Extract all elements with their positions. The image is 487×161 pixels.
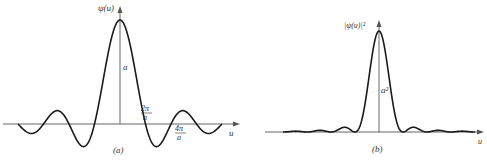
y-axis-arrow-icon [118,6,123,13]
figure: ψ(u) a 2π a 4π a u (a) |ψ(u)|² a² u (b) [0,0,487,161]
panel-b: |ψ(u)|² a² u (b) [265,20,484,154]
y-axis-arrow-icon [377,20,382,27]
peak-label-b: a² [381,85,389,95]
x-axis-arrow-icon [477,130,484,135]
panel-a: ψ(u) a 2π a 4π a u (a) [3,3,240,155]
tick-4pi-den: a [177,133,181,142]
tick-2pi-den: a [143,113,147,122]
peak-label-a: a [123,62,128,72]
caption-a: (a) [113,145,124,155]
y-axis-label-a: ψ(u) [98,3,114,13]
y-axis-label-b: |ψ(u)|² [344,21,366,30]
tick-2pi-num: 2π [141,104,150,113]
x-axis-arrow-icon [233,122,240,127]
x-axis-label-a: u [229,128,234,138]
tick-4pi-num: 4π [175,124,184,133]
caption-b: (b) [372,144,383,154]
x-axis-label-b: u [478,137,482,146]
